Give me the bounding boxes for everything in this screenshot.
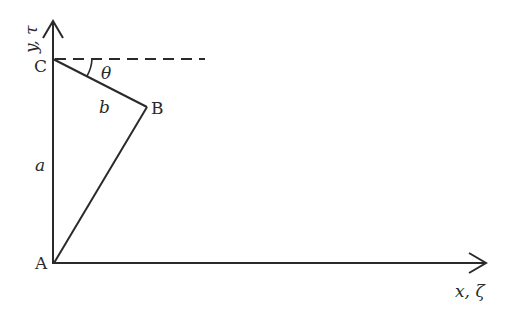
point-label-a: A [34,253,48,273]
segment-label-b: b [99,97,110,117]
point-label-b: B [151,98,164,118]
point-label-c: C [34,56,47,76]
diagram-canvas: y, τ C θ b B a A x, ζ [0,0,506,318]
angle-label-theta: θ [101,63,111,83]
vertical-axis-label: y, τ [21,25,41,54]
segment-label-a: a [35,155,45,175]
horizontal-axis-label: x, ζ [455,281,486,301]
angle-arc-theta [87,59,92,76]
segment-ba [54,107,147,263]
